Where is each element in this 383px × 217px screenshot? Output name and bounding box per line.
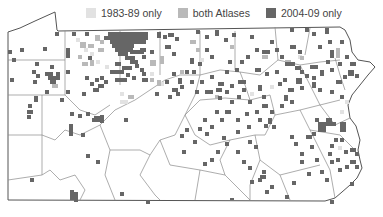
legend-item-2004-09-only: 2004-09 only — [266, 7, 342, 19]
squares-2004-09-only — [8, 28, 359, 204]
legend-swatch-dark-icon — [266, 8, 276, 18]
legend-item-both-atlases: both Atlases — [178, 7, 250, 19]
legend-swatch-light-icon — [86, 8, 96, 18]
legend-label: both Atlases — [193, 7, 250, 19]
legend-label: 2004-09 only — [281, 7, 342, 19]
map-legend: 1983-89 only both Atlases 2004-09 only — [82, 7, 346, 19]
pennsylvania-map — [0, 0, 383, 217]
legend-swatch-medium-icon — [178, 8, 188, 18]
legend-label: 1983-89 only — [101, 7, 162, 19]
legend-item-1983-89-only: 1983-89 only — [86, 7, 162, 19]
county-lines — [8, 27, 355, 200]
